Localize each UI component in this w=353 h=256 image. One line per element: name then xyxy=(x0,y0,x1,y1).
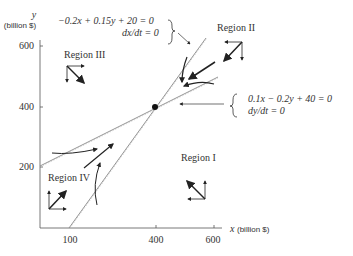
x-axis-label: x xyxy=(229,223,235,234)
x-tick-600: 600 xyxy=(206,234,221,245)
x-tick-100: 100 xyxy=(63,234,78,245)
region-iii-label: Region III xyxy=(64,49,105,60)
y-tick-200: 200 xyxy=(19,161,34,172)
region-ii-direction-arrows xyxy=(224,42,242,61)
brace-icon xyxy=(168,20,175,44)
equilibrium-point xyxy=(152,104,158,110)
x-axis-unit: (billion $) xyxy=(237,225,270,234)
x-tick-400: 400 xyxy=(149,234,164,245)
dy-condition: dy/dt = 0 xyxy=(248,105,285,116)
dx-isocline xyxy=(69,38,207,228)
region-iv-direction-arrows xyxy=(49,191,66,209)
region-i-direction-arrows xyxy=(187,181,205,199)
region-iv-label: Region IV xyxy=(48,172,91,183)
pointer-arrow-dx xyxy=(178,33,190,44)
dx-condition: dx/dt = 0 xyxy=(122,27,159,38)
y-tick-400: 400 xyxy=(19,101,34,112)
y-axis-label: y xyxy=(31,9,37,20)
region-i-label: Region I xyxy=(181,152,216,163)
region-ii-label: Region II xyxy=(217,22,255,33)
phase-diagram: y (billion $) 600 400 200 100 400 600 x … xyxy=(0,0,353,256)
y-tick-600: 600 xyxy=(19,40,34,51)
region-iii-direction-arrows xyxy=(67,66,84,83)
brace-icon xyxy=(230,94,237,117)
dy-isocline-equation: 0.1x − 0.2y + 40 = 0 xyxy=(248,93,332,104)
y-axis-unit: (billion $) xyxy=(4,21,37,30)
dx-isocline-equation: −0.2x + 0.15y + 20 = 0 xyxy=(58,15,154,26)
